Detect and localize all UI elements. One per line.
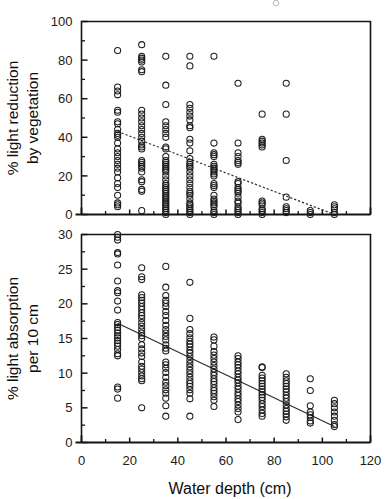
- x-tick-label: 80: [267, 453, 281, 468]
- y-tick-label: 5: [65, 400, 72, 415]
- data-point: [187, 117, 193, 123]
- plot-frame: [82, 235, 371, 443]
- y-tick-label: 80: [58, 53, 72, 68]
- data-point: [115, 298, 121, 304]
- data-point: [187, 63, 193, 69]
- data-point: [163, 53, 169, 59]
- plot-frame: [82, 22, 371, 215]
- data-point: [115, 175, 121, 181]
- data-point: [163, 101, 169, 107]
- x-tick-label: 60: [219, 453, 233, 468]
- y-tick-label: 30: [58, 227, 72, 242]
- panel-top: 020406080100: [51, 14, 371, 222]
- data-point: [211, 403, 217, 409]
- figure-container: 020406080100051015202530020406080100120W…: [0, 0, 385, 499]
- data-point: [235, 80, 241, 86]
- panel-bottom: 051015202530: [58, 227, 370, 450]
- data-points-top: [115, 42, 338, 218]
- data-point: [163, 82, 169, 88]
- y-axis-title-bottom-line1: % light absorption: [4, 277, 21, 400]
- data-point: [115, 307, 121, 313]
- data-point: [307, 403, 313, 409]
- data-point: [163, 284, 169, 290]
- data-point: [187, 413, 193, 419]
- data-point: [139, 169, 145, 175]
- data-point: [139, 208, 145, 214]
- data-point: [115, 278, 121, 284]
- y-tick-label: 0: [65, 207, 72, 222]
- trend-line-bottom: [118, 323, 335, 426]
- data-point: [139, 42, 145, 48]
- x-tick-label: 0: [78, 453, 85, 468]
- data-point: [163, 413, 169, 419]
- data-point: [307, 387, 313, 393]
- data-point: [235, 417, 241, 423]
- data-point: [307, 376, 313, 382]
- data-points-bottom: [115, 231, 338, 429]
- y-axis-title-top-line1: % light reduction: [4, 61, 21, 176]
- data-point: [163, 403, 169, 409]
- y-tick-label: 20: [58, 169, 72, 184]
- data-point: [163, 263, 169, 269]
- data-point: [115, 47, 121, 53]
- data-point: [139, 405, 145, 411]
- y-tick-label: 15: [58, 331, 72, 346]
- x-tick-label: 40: [171, 453, 185, 468]
- data-point: [115, 184, 121, 190]
- y-tick-label: 40: [58, 130, 72, 145]
- data-point: [283, 194, 289, 200]
- data-point: [115, 92, 121, 98]
- data-point: [187, 148, 193, 154]
- data-point: [139, 265, 145, 271]
- x-tick-label: 120: [360, 453, 382, 468]
- data-point: [259, 111, 265, 117]
- y-tick-label: 20: [58, 296, 72, 311]
- data-point: [187, 315, 193, 321]
- data-point: [115, 395, 121, 401]
- y-axis-title-top-line2: by vegetation: [24, 72, 41, 164]
- y-tick-label: 25: [58, 262, 72, 277]
- data-point: [283, 80, 289, 86]
- data-point: [235, 140, 241, 146]
- data-point: [211, 140, 217, 146]
- data-point: [283, 157, 289, 163]
- trend-line-top: [118, 132, 335, 215]
- figure-svg: 020406080100051015202530020406080100120W…: [0, 0, 385, 499]
- data-point: [283, 111, 289, 117]
- y-tick-label: 0: [65, 435, 72, 450]
- data-point: [187, 279, 193, 285]
- x-axis-title: Water depth (cm): [169, 480, 292, 497]
- data-point: [187, 53, 193, 59]
- data-point: [115, 192, 121, 198]
- y-axis-title-bottom-line2: per 10 cm: [24, 304, 41, 373]
- data-point: [163, 134, 169, 140]
- data-point: [115, 140, 121, 146]
- stray-data-point-artifact: [273, 0, 279, 6]
- data-point: [211, 53, 217, 59]
- data-point: [187, 140, 193, 146]
- y-tick-label: 10: [58, 366, 72, 381]
- x-tick-label: 20: [122, 453, 136, 468]
- data-point: [115, 262, 121, 268]
- y-tick-label: 100: [51, 14, 73, 29]
- data-point: [115, 169, 121, 175]
- y-tick-label: 60: [58, 91, 72, 106]
- x-tick-label: 100: [311, 453, 333, 468]
